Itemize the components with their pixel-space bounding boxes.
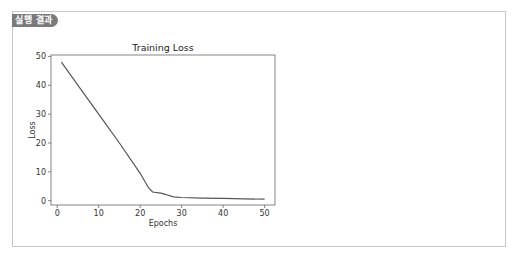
x-axis-ticks: 01020304050 — [55, 205, 270, 218]
y-tick-label: 50 — [36, 52, 46, 61]
x-axis-label: Epochs — [149, 219, 178, 228]
x-tick-label: 10 — [94, 209, 104, 218]
y-tick-label: 20 — [36, 139, 46, 148]
plot-area — [51, 55, 275, 205]
y-tick-label: 10 — [36, 168, 46, 177]
x-tick-label: 30 — [177, 209, 187, 218]
y-axis-ticks: 01020304050 — [36, 52, 51, 205]
x-tick-label: 20 — [135, 209, 145, 218]
training-loss-chart: Training Loss 01020304050 01020304050 Ep… — [0, 0, 515, 256]
x-tick-label: 50 — [260, 209, 270, 218]
y-tick-label: 40 — [36, 81, 46, 90]
y-tick-label: 30 — [36, 110, 46, 119]
x-tick-label: 40 — [218, 209, 228, 218]
y-axis-label: Loss — [28, 121, 37, 139]
loss-line — [61, 62, 264, 199]
x-tick-label: 0 — [55, 209, 60, 218]
y-tick-label: 0 — [41, 197, 46, 206]
chart-title: Training Loss — [131, 42, 193, 53]
